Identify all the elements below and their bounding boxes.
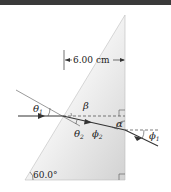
- arc-theta1: [48, 108, 50, 116]
- arc-phi1: [142, 130, 144, 139]
- prism: [25, 15, 125, 180]
- label-alpha: α: [116, 118, 123, 129]
- label-phi1: ϕ1: [149, 130, 160, 142]
- label-apex-angle: 60.0°: [33, 170, 58, 180]
- label-theta1: θ1: [33, 103, 43, 115]
- label-beta: β: [82, 100, 89, 111]
- dimension-arrow-left: [65, 58, 70, 62]
- prism-diagram: 6.00 cm θ1 β θ2 ϕ2 α ϕ1 60.0°: [0, 0, 171, 192]
- dimension-label: 6.00 cm: [73, 55, 110, 65]
